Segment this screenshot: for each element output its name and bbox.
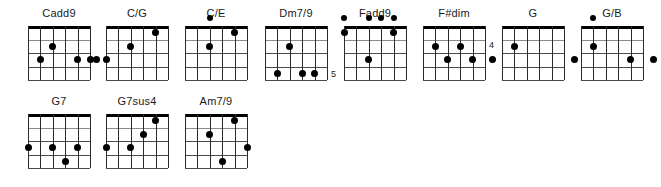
fret-line [265,67,327,68]
string-line [210,114,211,168]
string-line [143,114,144,168]
fret-line [185,168,247,169]
string-line [210,26,211,80]
string-line [356,26,357,80]
fret-line [581,80,643,81]
fret-line [581,40,643,41]
string-line [643,26,644,80]
finger-dot [444,56,451,63]
finger-dot [231,117,238,124]
fret-line [502,67,564,68]
finger-dot [590,43,597,50]
fret-line [423,53,485,54]
string-line [106,26,107,80]
fret-line [28,128,90,129]
string-line [78,114,79,168]
fret-line [185,80,247,81]
string-line [143,26,144,80]
fretboard-grid: 4 [423,26,485,80]
finger-dot [140,131,147,138]
string-line [485,26,486,80]
finger-dot [365,56,372,63]
nut-line [423,26,485,29]
nut-line [28,26,90,29]
fretboard-grid [581,26,643,80]
fret-line [106,40,168,41]
string-line [552,26,553,80]
string-line [514,26,515,80]
fretboard-grid [106,26,168,80]
finger-dot [299,70,306,77]
string-line [185,26,186,80]
fretboard-grid [28,26,90,80]
chord-diagram: G7sus4 [98,94,176,168]
string-line [381,26,382,80]
nut-line [581,26,643,29]
fret-line [28,168,90,169]
fret-line [106,141,168,142]
string-line [631,26,632,80]
finger-dot [25,144,32,151]
finger-dot [49,43,56,50]
fretboard-grid [502,26,564,80]
string-line [28,114,29,168]
string-line [327,26,328,80]
nut-line [185,26,247,29]
string-line [222,26,223,80]
string-line [593,26,594,80]
fret-line [344,80,406,81]
fret-line [28,155,90,156]
finger-dot [219,158,226,165]
string-line [131,114,132,168]
finger-dot [93,56,100,63]
string-line [618,26,619,80]
string-line [106,114,107,168]
fret-line [265,80,327,81]
string-line [290,26,291,80]
string-line [473,26,474,80]
finger-dot [311,70,318,77]
string-line [527,26,528,80]
string-line [168,114,169,168]
finger-dot [127,43,134,50]
chord-name-label: G7sus4 [98,94,176,108]
nut-line [502,26,564,29]
chord-diagram: C/G [98,6,176,80]
fret-line [344,67,406,68]
chord-name-label: Dm7/9 [257,6,335,20]
finger-dot [469,56,476,63]
finger-dot [627,56,634,63]
open-string-marker [378,15,384,21]
string-line [90,114,91,168]
fret-line [28,80,90,81]
fret-line [28,141,90,142]
chord-diagram: Fadd9 [336,6,414,80]
chord-name-label: G [494,6,572,20]
string-line [606,26,607,80]
fret-line [106,80,168,81]
fret-line [106,53,168,54]
chord-diagram: G [494,6,572,80]
fret-line [581,67,643,68]
string-line [448,26,449,80]
chord-name-label: C/E [177,6,255,20]
string-line [581,26,582,80]
open-string-marker [590,15,596,21]
string-line [197,26,198,80]
fret-line [185,53,247,54]
chord-diagram: Dm7/95 [257,6,335,80]
finger-dot [62,158,69,165]
finger-dot [511,43,518,50]
fret-line [423,80,485,81]
string-line [564,26,565,80]
finger-dot [74,144,81,151]
finger-dot [37,56,44,63]
string-line [78,26,79,80]
string-line [118,114,119,168]
chord-diagram: G7 [20,94,98,168]
fret-line [581,53,643,54]
string-line [197,114,198,168]
string-line [131,26,132,80]
string-line [539,26,540,80]
open-string-marker [366,15,372,21]
